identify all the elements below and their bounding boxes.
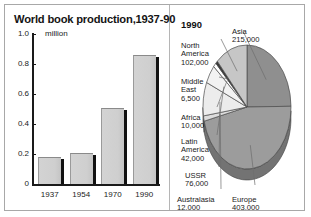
bar-1970	[101, 108, 124, 184]
pie-label-australasia: Australasia 12,000	[177, 187, 215, 211]
y-axis-tick-label: 0.6	[5, 89, 29, 98]
pie-label-africa: Africa 10,000	[181, 105, 204, 131]
pie-label-asia-value: 215,000	[232, 35, 259, 44]
bar-shadow-1937	[61, 159, 64, 184]
y-axis-line	[32, 33, 34, 185]
y-axis-tick	[32, 154, 36, 155]
chart-title: World book production,1937-90	[14, 13, 175, 25]
bar-shadow-1990	[156, 57, 159, 184]
bar-1937	[38, 157, 61, 184]
x-axis-label-1937: 1937	[33, 190, 67, 199]
y-axis-tick-label: 0.4	[5, 119, 29, 128]
y-axis-unit-label: million	[45, 29, 68, 38]
y-axis-tick-label: 0.2	[5, 149, 29, 158]
x-axis-label-1990: 1990	[127, 190, 161, 199]
figure-container: World book production,1937-90 million 00…	[4, 4, 305, 211]
pie-label-latin-america: Latin America 42,000	[181, 129, 209, 163]
x-axis-label-1954: 1954	[64, 190, 98, 199]
pie-label-australasia-value: 12,000	[177, 203, 200, 211]
pie-label-north-america-name: North America	[181, 41, 209, 59]
bar-shadow-1970	[124, 110, 127, 184]
bar-shadow-1954	[93, 155, 96, 184]
pie-label-ussr: USSR 76,000	[185, 163, 208, 189]
pie-label-middle-east-value: 6,500	[181, 94, 200, 103]
bar-1990	[133, 55, 156, 184]
y-axis-tick-label: 1.0	[5, 29, 29, 38]
y-axis-tick	[32, 124, 36, 125]
bar-chart-panel: World book production,1937-90 million 00…	[5, 5, 169, 211]
pie-label-north-america-value: 102,000	[181, 58, 208, 67]
y-axis-tick-label: 0.8	[5, 59, 29, 68]
bar-1954	[70, 153, 93, 184]
x-axis-label-1970: 1970	[96, 190, 130, 199]
pie-label-latin-america-name: Latin America	[181, 137, 209, 155]
x-axis-line	[32, 184, 160, 186]
pie-slice-asia	[247, 45, 291, 107]
pie-label-latin-america-value: 42,000	[181, 154, 204, 163]
y-axis-tick	[32, 94, 36, 95]
pie-label-middle-east-name: Middle East	[181, 77, 203, 95]
y-axis-tick	[32, 34, 36, 35]
pie-chart-panel: 1990 North America 102,000 Middle East 6…	[169, 5, 305, 211]
pie-label-europe: Europe 403,000	[232, 187, 259, 211]
pie-label-north-america: North America 102,000	[181, 33, 209, 67]
y-axis-tick	[32, 64, 36, 65]
pie-label-middle-east: Middle East 6,500	[181, 69, 203, 103]
pie-label-europe-value: 403,000	[232, 203, 259, 211]
pie-label-asia: Asia 215,000	[232, 19, 259, 45]
y-axis-tick-label: 0	[5, 179, 29, 188]
